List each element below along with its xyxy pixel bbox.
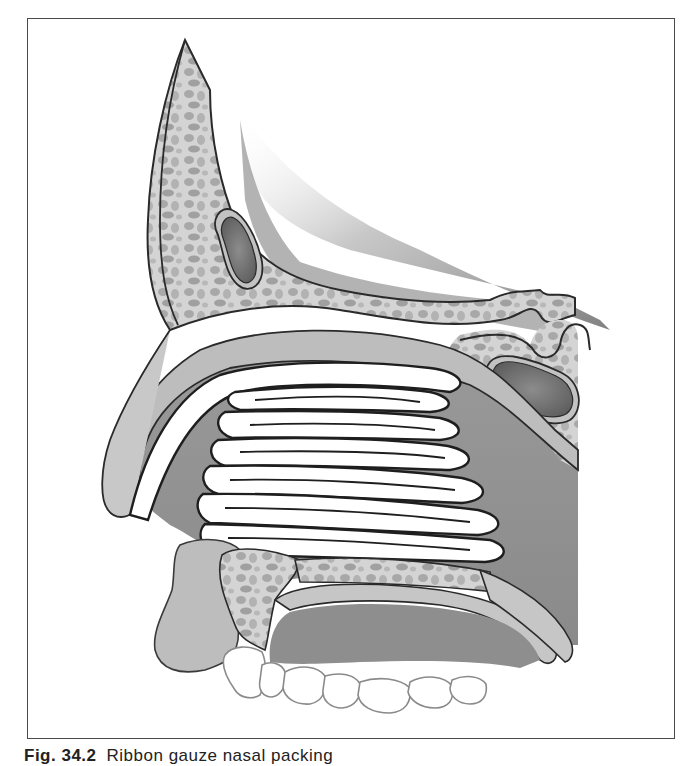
caption-text: Ribbon gauze nasal packing (107, 746, 334, 765)
caption-label: Fig. 34.2 (24, 746, 97, 765)
figure-caption: Fig. 34.2Ribbon gauze nasal packing (24, 746, 333, 766)
